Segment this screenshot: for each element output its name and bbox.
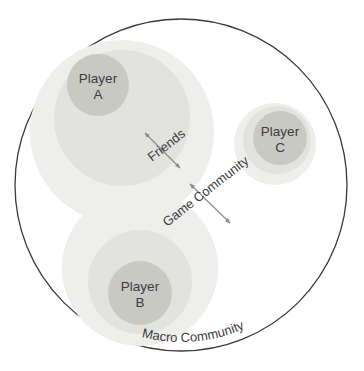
player-c-label-line1: Player xyxy=(261,124,300,139)
player-a-label-line1: Player xyxy=(79,71,118,86)
group-player-b: Player B xyxy=(62,190,218,346)
player-c-label-line2: C xyxy=(275,140,285,155)
player-b-label-line1: Player xyxy=(121,279,160,294)
diagram-canvas: Player A Player B Player C Friends Gam xyxy=(0,0,364,371)
group-player-c: Player C xyxy=(234,103,316,185)
player-a-label-line2: A xyxy=(93,87,102,102)
nested-community-venn-diagram: Player A Player B Player C Friends Gam xyxy=(0,0,364,371)
player-b-label-line2: B xyxy=(135,295,144,310)
